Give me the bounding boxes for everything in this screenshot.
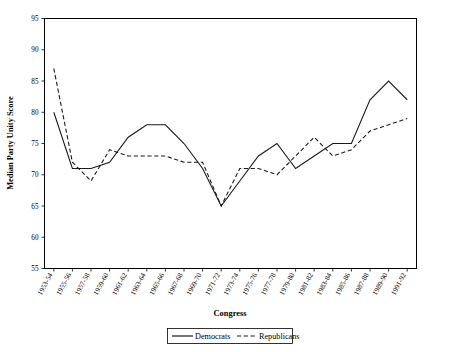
y-tick-label: 90 (31, 46, 39, 54)
legend-label-democrats: Democrats (195, 332, 230, 341)
x-tick-label: 1983-84 (315, 271, 334, 296)
x-tick-label: 1963-64 (129, 271, 148, 296)
legend-label-republicans: Republicans (259, 332, 299, 341)
x-tick-label: 1959-60 (92, 271, 111, 296)
party-unity-line-chart: 556065707580859095 1953-541955-561957-58… (0, 0, 459, 352)
y-tick-label: 55 (31, 265, 39, 273)
x-tick-label: 1981-82 (297, 271, 316, 296)
chart-figure: 556065707580859095 1953-541955-561957-58… (0, 0, 459, 352)
x-tick-label: 1979-80 (278, 271, 297, 296)
x-tick-label: 1987-88 (352, 271, 371, 296)
y-tick-label: 75 (31, 140, 39, 148)
x-tick-label: 1961-62 (111, 271, 130, 296)
plot-frame (45, 19, 417, 269)
x-tick-label: 1955-56 (55, 271, 74, 296)
x-tick-label: 1991-92 (390, 271, 409, 296)
x-tick-label: 1985-86 (334, 271, 353, 296)
y-tick-label: 60 (31, 234, 39, 242)
x-axis-title: Congress (214, 309, 248, 318)
x-tick-label: 1975-76 (241, 271, 260, 296)
x-axis-labels: 1953-541955-561957-581959-601961-621963-… (36, 271, 408, 296)
x-tick-label: 1953-54 (36, 271, 55, 296)
x-tick-label: 1971-72 (204, 271, 223, 296)
x-tick-label: 1977-78 (259, 271, 278, 296)
y-axis: 556065707580859095 (31, 15, 44, 273)
x-tick-label: 1973-74 (222, 271, 241, 296)
x-tick-label: 1969-70 (185, 271, 204, 296)
x-tick-label: 1989-90 (371, 271, 390, 296)
chart-legend: Democrats Republicans (168, 329, 300, 344)
data-series-group (54, 69, 407, 207)
y-tick-label: 95 (31, 15, 39, 23)
y-tick-label: 85 (31, 78, 39, 86)
x-tick-label: 1967-68 (166, 271, 185, 296)
x-tick-label: 1965-66 (148, 271, 167, 296)
y-tick-label: 65 (31, 203, 39, 211)
x-tick-label: 1957-58 (73, 271, 92, 296)
y-axis-title: Median Party Unity Score (6, 96, 15, 190)
y-tick-label: 70 (31, 171, 39, 179)
y-tick-label: 80 (31, 109, 39, 117)
